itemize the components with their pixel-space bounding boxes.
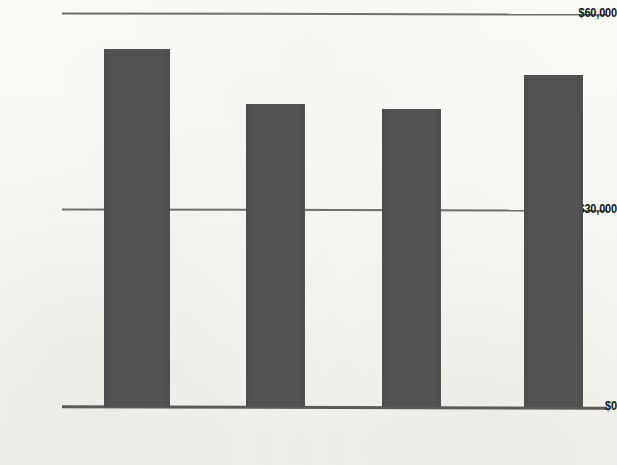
bar-blacks [246, 104, 305, 407]
plot-area: $54,528 Asians $46,198 blacks $45,344 Hi… [0, 0, 617, 465]
bar-asians [104, 49, 170, 407]
bar-chart: $60,000 $30,000 $0 $54,528 Asians $46,19… [0, 0, 617, 465]
bar-non-hispanic-whites [524, 75, 583, 407]
bar-hispanics [382, 109, 441, 407]
